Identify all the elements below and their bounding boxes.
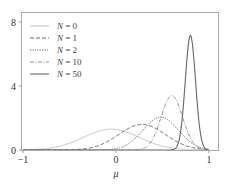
legend-label: N = 2 [56, 45, 77, 55]
curve-n-10 [23, 96, 209, 150]
legend-label: N = 50 [56, 69, 82, 79]
x-axis: −101 [18, 151, 212, 166]
y-tick-label: 8 [11, 17, 16, 28]
curve-n-2 [23, 117, 209, 150]
legend: N = 0N = 1N = 2N = 10N = 50 [30, 21, 82, 79]
legend-label: N = 0 [56, 21, 78, 31]
legend-label: N = 10 [56, 57, 82, 67]
y-tick-label: 0 [11, 145, 16, 156]
curves [23, 36, 209, 150]
y-tick-label: 4 [11, 81, 16, 92]
legend-label: N = 1 [56, 33, 77, 43]
curve-n-0 [23, 129, 209, 150]
posterior-chart: 048 −101 μ N = 0N = 1N = 2N = 10N = 50 [0, 0, 229, 184]
y-axis: 048 [11, 17, 22, 156]
x-axis-label: μ [112, 168, 118, 179]
x-tick-label: −1 [18, 154, 29, 165]
x-tick-label: 1 [207, 154, 212, 165]
x-tick-label: 0 [114, 154, 119, 165]
